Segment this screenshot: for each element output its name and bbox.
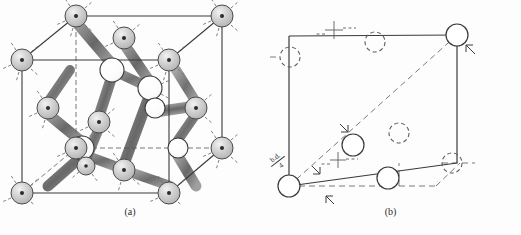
hidden-construction-lines xyxy=(270,35,475,186)
panel-a-caption: (a) xyxy=(0,206,260,217)
dashed-atom-circles xyxy=(280,32,462,173)
panel-b-caption: (b) xyxy=(260,206,521,217)
panel-b-drawing xyxy=(260,0,521,205)
panel-a-drawing xyxy=(0,0,260,205)
panel-b-line-cell: b.d. 4 (b) xyxy=(260,0,521,235)
figure-root: (a) xyxy=(0,0,521,235)
panel-a-diamond-cell: (a) xyxy=(0,0,260,235)
